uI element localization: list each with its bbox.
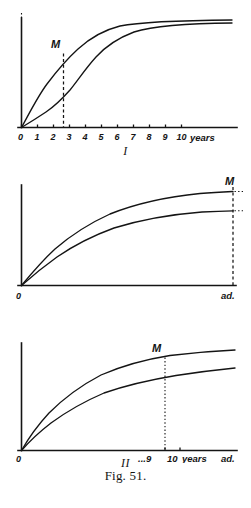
figure-caption-area: Fig. 51. — [0, 466, 251, 484]
chart-III-origin-label: 0 — [16, 454, 21, 463]
chart-panel-III: M 0 ...9 10 years ad. III — [0, 313, 251, 463]
chart-III-end-label: ad. — [221, 453, 235, 463]
chart-III-upper-curve — [22, 350, 236, 451]
chart-panel-II: M 0 ad. II — [0, 165, 251, 313]
chart-II-origin-label: 0 — [16, 291, 21, 301]
chart-I-point-label-M: M — [51, 38, 61, 50]
chart-III-unit-label: years — [181, 453, 207, 463]
svg-text:0: 0 — [18, 132, 23, 142]
chart-III-point-label-M: M — [152, 342, 162, 354]
svg-text:7: 7 — [131, 132, 137, 142]
svg-text:8: 8 — [147, 132, 152, 142]
svg-text:1: 1 — [35, 132, 40, 142]
chart-I-unit-label: years — [189, 132, 215, 143]
svg-text:4: 4 — [82, 132, 88, 142]
chart-I-x-tick-labels: 0 1 2 3 4 5 6 7 8 9 10 — [18, 132, 187, 142]
svg-text:5: 5 — [99, 132, 105, 142]
chart-panel-I: M 0 1 2 3 4 5 6 7 8 9 10 years I — [0, 0, 251, 165]
chart-III-tick-label-9: ...9 — [138, 453, 152, 463]
chart-II-point-label-M: M — [225, 175, 235, 187]
chart-III-tick-label-10: 10 — [167, 453, 178, 463]
svg-text:9: 9 — [163, 132, 168, 142]
svg-text:6: 6 — [115, 132, 121, 142]
svg-text:2: 2 — [50, 132, 56, 142]
chart-I-roman-label: I — [0, 144, 251, 159]
chart-III-svg: M 0 ...9 10 years ad. — [0, 313, 251, 463]
chart-I-upper-curve — [22, 20, 233, 128]
chart-I-svg: M 0 1 2 3 4 5 6 7 8 9 10 years — [0, 0, 251, 165]
figure-51: M 0 1 2 3 4 5 6 7 8 9 10 years I — [0, 0, 251, 508]
svg-text:10: 10 — [177, 132, 187, 142]
svg-text:3: 3 — [67, 132, 72, 142]
figure-caption: Fig. 51. — [105, 468, 147, 483]
chart-II-upper-curve — [22, 192, 234, 286]
chart-II-svg: M 0 ad. — [0, 165, 251, 313]
chart-II-lower-curve — [22, 211, 234, 286]
chart-II-end-label: ad. — [221, 290, 235, 301]
